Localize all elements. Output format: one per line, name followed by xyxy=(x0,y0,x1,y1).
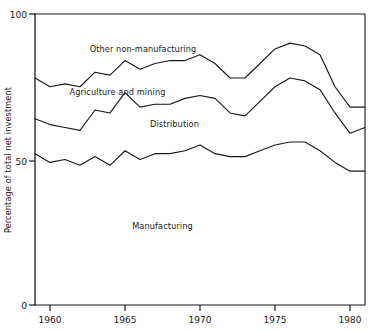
y-tick-label-100: 100 xyxy=(10,10,27,20)
series-boundary-agriculture-and-mining-top xyxy=(35,43,365,107)
band-labels-group: Other non-manufacturingAgriculture and m… xyxy=(70,44,199,232)
x-tick-label-1980: 1980 xyxy=(339,315,362,325)
x-axis-ticks xyxy=(50,305,350,311)
series-boundary-manufacturing-top xyxy=(35,142,365,171)
y-axis-ticks xyxy=(29,14,35,305)
band-label-agriculture-and-mining: Agriculture and mining xyxy=(70,87,166,97)
x-tick-label-1965: 1965 xyxy=(114,315,137,325)
x-axis-tick-labels: 19601965197019751980 xyxy=(39,315,362,325)
y-axis-title: Percentage of total net investment xyxy=(3,86,13,233)
series-boundary-distribution-top xyxy=(35,78,365,133)
band-label-other-non-manufacturing: Other non-manufacturing xyxy=(90,44,197,54)
series-lines-group xyxy=(35,43,365,171)
y-tick-label-0: 0 xyxy=(21,301,27,311)
x-tick-label-1960: 1960 xyxy=(39,315,62,325)
chart-container: 100 50 0 19601965197019751980 Percentage… xyxy=(0,0,377,330)
y-tick-label-50: 50 xyxy=(16,157,28,167)
x-tick-label-1975: 1975 xyxy=(264,315,287,325)
plot-frame xyxy=(35,14,365,305)
x-tick-label-1970: 1970 xyxy=(189,315,212,325)
band-label-manufacturing: Manufacturing xyxy=(132,221,193,231)
investment-share-chart: 100 50 0 19601965197019751980 Percentage… xyxy=(0,0,377,330)
band-label-distribution: Distribution xyxy=(150,119,199,129)
